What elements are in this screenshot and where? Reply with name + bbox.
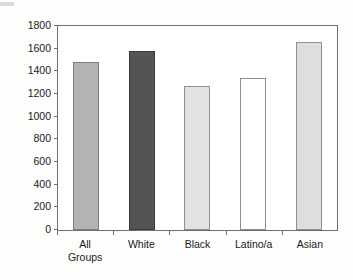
x-axis-tick-marks: [57, 231, 338, 236]
y-tick-label: 600: [33, 155, 51, 168]
bar-slot: [225, 26, 281, 230]
bar-all-groups: [73, 62, 99, 230]
x-axis-label-line: Black: [185, 238, 211, 250]
x-axis-label: AllGroups: [57, 238, 113, 264]
x-axis-tick: [169, 231, 225, 236]
x-tick-mark: [57, 231, 58, 235]
scan-artifact: [0, 2, 14, 6]
bar-slot: [58, 26, 114, 230]
x-axis-tick: [57, 231, 113, 236]
x-axis-label-line: White: [128, 238, 155, 250]
x-axis-tick: [282, 231, 338, 236]
y-tick-label: 1000: [28, 110, 51, 123]
x-axis-tick: [226, 231, 282, 236]
y-tick-label: 1800: [28, 19, 51, 32]
x-axis-label: White: [113, 238, 169, 264]
y-tick-label: 400: [33, 178, 51, 191]
y-tick-label: 200: [33, 200, 51, 213]
bar-white: [129, 51, 155, 230]
bar-series: [58, 26, 337, 230]
x-axis-tick: [113, 231, 169, 236]
x-tick-mark: [113, 231, 114, 235]
bar-latino-a: [240, 78, 266, 230]
bar-slot: [281, 26, 337, 230]
y-tick-label: 1400: [28, 64, 51, 77]
bar-asian: [296, 42, 322, 230]
bar-chart-figure: 180016001400120010008006004002000 AllGro…: [0, 0, 353, 280]
x-axis-label-line: Groups: [57, 251, 113, 264]
x-axis-label: Black: [169, 238, 225, 264]
y-tick-label: 1200: [28, 87, 51, 100]
x-axis-labels: AllGroupsWhiteBlackLatino/aAsian: [57, 238, 338, 264]
x-axis-label-line: Latino/a: [235, 238, 272, 250]
x-axis-label: Latino/a: [226, 238, 282, 264]
bar-slot: [114, 26, 170, 230]
plot-area: 180016001400120010008006004002000: [57, 25, 338, 231]
bar-black: [184, 86, 210, 230]
x-tick-mark: [282, 231, 283, 235]
y-tick-label: 1600: [28, 42, 51, 55]
x-tick-mark: [169, 231, 170, 235]
y-tick-label: 800: [33, 132, 51, 145]
y-tick-label: 0: [45, 223, 51, 236]
x-axis-label: Asian: [282, 238, 338, 264]
x-axis-label-line: Asian: [297, 238, 323, 250]
bar-slot: [170, 26, 226, 230]
x-tick-mark: [226, 231, 227, 235]
x-axis-label-line: All: [79, 238, 91, 250]
